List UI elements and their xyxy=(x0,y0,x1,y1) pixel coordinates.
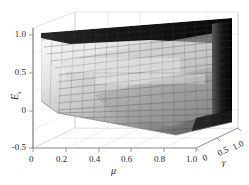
z-tick-label-0: 1.0 xyxy=(4,30,26,39)
x-tick-label-2: 0.4 xyxy=(89,155,100,164)
x-tick-label-1: 0.2 xyxy=(56,155,67,164)
x-axis-title: μ xyxy=(111,166,116,176)
figure-3d-surface-plot: 1.0 0.5 0 -0.5 Es 0 0.2 0.4 0.6 0.8 1.0 … xyxy=(0,0,249,185)
z-axis-title-base: E xyxy=(9,94,20,100)
z-tick-label-3: -0.5 xyxy=(0,143,26,152)
x-tick-label-0: 0 xyxy=(29,155,34,164)
x-tick-label-5: 1.0 xyxy=(186,155,197,164)
x-tick-label-3: 0.6 xyxy=(121,155,132,164)
z-tick-label-1: 0.5 xyxy=(4,68,26,77)
z-axis-title-subscript: s xyxy=(16,92,22,94)
y-axis-title: γ xyxy=(222,158,226,167)
z-tick-label-2: 0 xyxy=(4,106,26,115)
z-axis-title: Es xyxy=(10,92,22,100)
x-tick-label-4: 0.8 xyxy=(154,155,165,164)
